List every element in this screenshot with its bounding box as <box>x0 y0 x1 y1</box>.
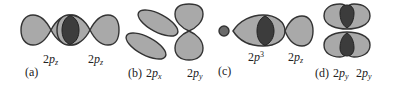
lobe-a1-left <box>21 15 51 45</box>
lobe-c-sp3-minor <box>219 26 229 36</box>
label-a-orbital-1: 2pz <box>43 53 58 67</box>
panel-d-tag: (d) <box>315 67 329 79</box>
panel-b-tag: (b) <box>128 67 142 79</box>
label-b-orbital-1: 2px <box>146 67 162 81</box>
panel-c-tag: (c) <box>218 65 231 77</box>
panel-d-orbitals <box>324 4 370 57</box>
label-b-orbital-2: 2py <box>187 67 203 81</box>
lobe-b-py-top <box>175 4 203 31</box>
label-a-orbital-2: 2pz <box>88 53 103 67</box>
label-c-orbital-1: 2p3 <box>248 51 264 63</box>
panel-a-orbitals <box>21 15 119 45</box>
orbital-overlap-figure: .lobe { fill: #a9a9a9; stroke: #333; str… <box>0 0 395 85</box>
panel-c-orbitals <box>219 15 313 46</box>
lobe-c-pz <box>285 16 313 46</box>
lobe-a2-right <box>90 15 119 45</box>
lobe-b-py-bottom <box>175 31 203 60</box>
panel-a-tag: (a) <box>25 66 38 78</box>
label-c-orbital-2: 2pz <box>288 51 303 65</box>
label-d-orbital-2: 2py <box>356 67 372 81</box>
overlap-a <box>62 16 79 45</box>
label-d-orbital-1: 2py <box>333 67 349 81</box>
panel-b-orbitals <box>122 4 203 64</box>
